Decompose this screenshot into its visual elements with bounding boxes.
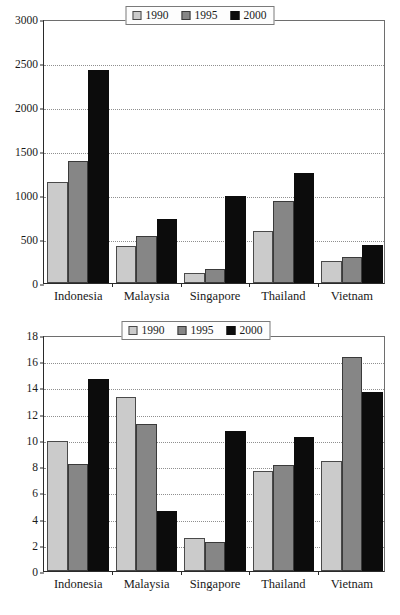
y-axis-tick-label: 0 (32, 567, 38, 579)
legend-item: 2000 (231, 10, 267, 22)
bar (47, 182, 68, 283)
bar-group (116, 337, 178, 571)
bar (184, 273, 205, 283)
legend-item: 1990 (129, 325, 165, 337)
legend-swatch-icon (231, 11, 240, 20)
plot-area-top: 050010001500200025003000IndonesiaMalaysi… (43, 20, 385, 284)
legend-item: 1995 (178, 325, 214, 337)
bar (68, 161, 89, 283)
bar (184, 538, 205, 571)
bar (116, 397, 137, 571)
y-axis-tick-mark (40, 285, 44, 286)
bar-group (47, 21, 109, 283)
x-axis-category-label: Thailand (261, 578, 305, 591)
y-axis-tick-label: 16 (27, 357, 39, 369)
x-axis-tick-mark (112, 571, 113, 575)
x-axis-category-label: Indonesia (54, 578, 103, 591)
bar (136, 236, 157, 283)
y-axis-tick-mark (40, 573, 44, 574)
legend: 199019952000 (122, 321, 271, 340)
x-axis-tick-mark (318, 283, 319, 287)
y-axis-tick-label: 6 (32, 489, 38, 501)
bar (273, 465, 294, 571)
x-axis-category-label: Singapore (190, 578, 241, 591)
y-axis-tick-label: 12 (27, 410, 39, 422)
x-axis-category-label: Singapore (190, 290, 241, 303)
bar (321, 261, 342, 283)
x-axis-tick-mark (112, 283, 113, 287)
bar-chart-bottom: 024681012141618IndonesiaMalaysiaSingapor… (0, 305, 400, 615)
y-axis-tick-label: 1500 (15, 147, 38, 159)
bar-group (321, 337, 383, 571)
bar (294, 437, 315, 571)
x-axis-category-label: Indonesia (54, 290, 103, 303)
plot-frame: 050010001500200025003000IndonesiaMalaysi… (43, 20, 385, 284)
y-axis-tick-label: 18 (27, 331, 39, 343)
bar (362, 245, 383, 283)
bar (136, 424, 157, 571)
bar (273, 201, 294, 283)
y-axis-tick-label: 2500 (15, 59, 38, 71)
bar (88, 379, 109, 571)
legend-label: 1995 (195, 10, 218, 22)
legend-label: 2000 (240, 325, 263, 337)
bar (362, 392, 383, 571)
y-axis-tick-label: 2 (32, 541, 38, 553)
bars-layer (44, 337, 384, 571)
y-axis-tick-label: 500 (21, 235, 38, 247)
legend-swatch-icon (178, 326, 187, 335)
bar-group (253, 21, 315, 283)
bar (68, 464, 89, 572)
bar-group (253, 337, 315, 571)
x-axis-tick-mark (249, 283, 250, 287)
bar (342, 257, 363, 283)
x-axis-category-label: Thailand (261, 290, 305, 303)
legend-label: 1995 (191, 325, 214, 337)
bar (321, 461, 342, 571)
bar (253, 471, 274, 571)
bar (116, 246, 137, 283)
y-axis-tick-label: 1000 (15, 191, 38, 203)
legend-swatch-icon (133, 11, 142, 20)
x-axis-tick-mark (181, 571, 182, 575)
bar (88, 70, 109, 283)
y-axis-tick-label: 0 (32, 279, 38, 291)
bars-layer (44, 21, 384, 283)
x-axis-category-label: Vietnam (331, 578, 373, 591)
plot-frame: 024681012141618IndonesiaMalaysiaSingapor… (43, 336, 385, 572)
legend-label: 1990 (146, 10, 169, 22)
x-axis-category-label: Malaysia (124, 290, 170, 303)
x-axis-category-label: Malaysia (124, 578, 170, 591)
bar-group (184, 337, 246, 571)
figure-page: 050010001500200025003000IndonesiaMalaysi… (0, 0, 400, 615)
bar (253, 231, 274, 283)
bar-group (184, 21, 246, 283)
y-axis-tick-label: 8 (32, 462, 38, 474)
x-axis-tick-mark (318, 571, 319, 575)
x-axis-tick-mark (181, 283, 182, 287)
legend-item: 2000 (227, 325, 263, 337)
y-axis-tick-label: 10 (27, 436, 39, 448)
bar (225, 431, 246, 571)
y-axis-tick-label: 4 (32, 515, 38, 527)
bar (157, 219, 178, 283)
bar (205, 542, 226, 572)
y-axis-tick-label: 14 (27, 384, 39, 396)
bar (225, 196, 246, 283)
legend-swatch-icon (182, 11, 191, 20)
x-axis-category-label: Vietnam (331, 290, 373, 303)
bar (157, 511, 178, 571)
legend-item: 1995 (182, 10, 218, 22)
bar-group (321, 21, 383, 283)
plot-area-bottom: 024681012141618IndonesiaMalaysiaSingapor… (43, 336, 385, 572)
legend-label: 1990 (142, 325, 165, 337)
bar-group (116, 21, 178, 283)
legend-item: 1990 (133, 10, 169, 22)
bar-chart-top: 050010001500200025003000IndonesiaMalaysi… (0, 0, 400, 305)
bar-group (47, 337, 109, 571)
legend: 199019952000 (126, 6, 275, 25)
bar (342, 357, 363, 571)
bar (47, 441, 68, 571)
legend-label: 2000 (244, 10, 267, 22)
x-axis-tick-mark (249, 571, 250, 575)
